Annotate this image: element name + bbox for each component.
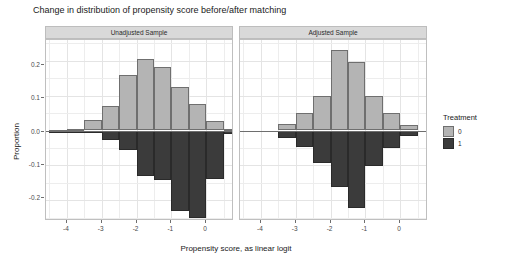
histogram-bar xyxy=(296,113,313,130)
histogram-bar xyxy=(102,106,119,130)
x-axis-label: Propensity score, as linear logit xyxy=(45,244,427,253)
histogram-bar xyxy=(102,131,119,141)
histogram-bar xyxy=(137,131,154,176)
x-tick-label: -4 xyxy=(257,225,263,232)
x-tick-mark xyxy=(330,220,331,223)
legend-label-0: 0 xyxy=(458,128,462,135)
y-tick-mark xyxy=(41,131,44,132)
histogram-bar xyxy=(171,131,188,212)
x-tick-mark xyxy=(170,220,171,223)
gridline-vertical xyxy=(261,40,262,219)
x-tick-label: -1 xyxy=(361,225,367,232)
panel-strip-label: Adjusted Sample xyxy=(308,29,357,36)
gridline-horizontal xyxy=(240,200,426,201)
legend-swatch-1 xyxy=(443,138,454,149)
histogram-bar xyxy=(365,131,382,166)
histogram-bar xyxy=(296,131,313,147)
x-tick-label: -3 xyxy=(98,225,104,232)
panel-strip-label: Unadjusted Sample xyxy=(111,29,168,36)
histogram-bar xyxy=(313,131,330,163)
y-tick-mark xyxy=(41,164,44,165)
y-tick-label: 0.2 xyxy=(31,61,40,68)
x-tick-label: -2 xyxy=(133,225,139,232)
panel-adjusted xyxy=(239,39,427,220)
y-axis: 0.2 0.1 0.0 -0.1 -0.2 xyxy=(18,0,40,266)
x-tick-mark xyxy=(66,220,67,223)
histogram-bar xyxy=(171,87,188,131)
histogram-bar xyxy=(206,131,223,180)
y-tick-mark xyxy=(41,197,44,198)
histogram-bar xyxy=(119,131,136,151)
panel-strip-unadjusted: Unadjusted Sample xyxy=(45,26,233,39)
gridline-vertical xyxy=(418,40,419,219)
legend-title: Treatment xyxy=(443,113,477,122)
x-tick-mark xyxy=(295,220,296,223)
panel-unadjusted xyxy=(45,39,233,220)
histogram-bar xyxy=(313,96,330,131)
histogram-bar xyxy=(84,120,101,130)
y-tick-mark xyxy=(41,64,44,65)
legend-item-0[interactable]: 0 xyxy=(443,126,477,137)
zero-line xyxy=(240,131,426,132)
histogram-bar xyxy=(331,131,348,187)
x-tick-label: 0 xyxy=(203,225,207,232)
gridline-horizontal xyxy=(240,43,426,44)
histogram-bar xyxy=(119,75,136,131)
x-tick-mark xyxy=(205,220,206,223)
x-tick-mark xyxy=(260,220,261,223)
x-tick-label: -2 xyxy=(327,225,333,232)
panel-strip-adjusted: Adjusted Sample xyxy=(239,26,427,39)
histogram-bar xyxy=(137,59,154,130)
chart-title: Change in distribution of propensity sco… xyxy=(33,5,286,15)
y-tick-mark xyxy=(41,97,44,98)
histogram-bar xyxy=(154,67,171,131)
histogram-bar xyxy=(348,131,365,209)
y-tick-label: 0.0 xyxy=(31,128,40,135)
zero-line xyxy=(46,131,232,132)
histogram-bar xyxy=(206,121,223,130)
chart-root: Change in distribution of propensity sco… xyxy=(0,0,505,266)
legend-label-1: 1 xyxy=(458,140,462,147)
x-tick-mark xyxy=(399,220,400,223)
x-tick-label: -3 xyxy=(292,225,298,232)
gridline-horizontal xyxy=(240,218,426,219)
histogram-bar xyxy=(348,62,365,130)
x-tick-mark xyxy=(136,220,137,223)
y-tick-label: -0.1 xyxy=(29,161,40,168)
histogram-bar xyxy=(383,113,400,130)
histogram-bar xyxy=(383,131,400,148)
histogram-bar xyxy=(278,131,295,138)
x-tick-mark xyxy=(364,220,365,223)
histogram-bar xyxy=(189,104,206,131)
y-tick-label: -0.2 xyxy=(29,194,40,201)
histogram-bar xyxy=(331,50,348,131)
histogram-bar xyxy=(365,96,382,131)
legend: Treatment 0 1 xyxy=(443,113,477,150)
gridline-vertical xyxy=(243,40,244,219)
legend-swatch-0 xyxy=(443,126,454,137)
y-tick-label: 0.1 xyxy=(31,94,40,101)
x-tick-label: -1 xyxy=(167,225,173,232)
x-tick-label: -4 xyxy=(63,225,69,232)
legend-item-1[interactable]: 1 xyxy=(443,138,477,149)
x-tick-label: 0 xyxy=(397,225,401,232)
gridline-horizontal xyxy=(46,43,232,44)
histogram-bar xyxy=(189,131,206,219)
x-tick-mark xyxy=(101,220,102,223)
histogram-bar xyxy=(154,131,171,180)
